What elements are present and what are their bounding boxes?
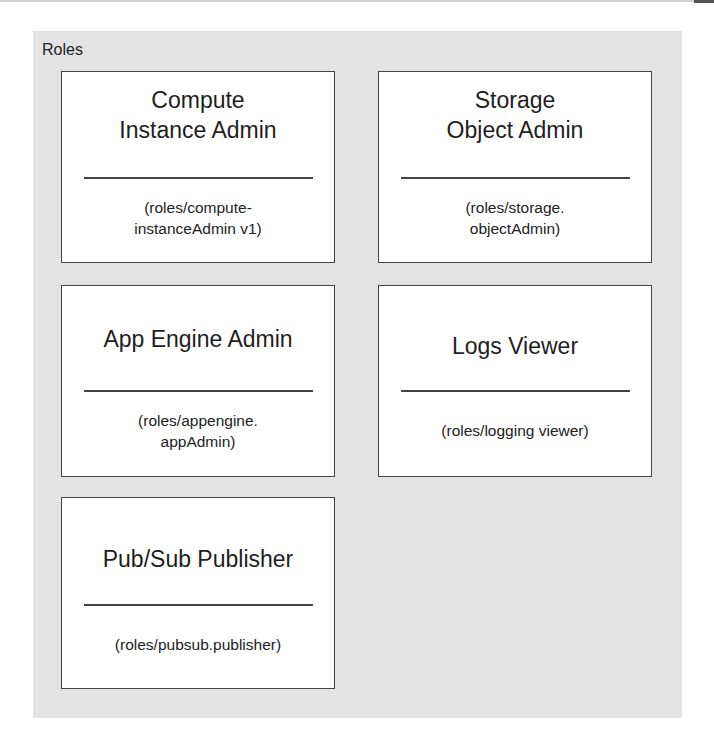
role-title-line: Pub/Sub Publisher	[62, 544, 334, 574]
role-title-line: Object Admin	[379, 115, 651, 145]
role-box-pubsub-publisher: Pub/Sub Publisher (roles/pubsub.publishe…	[61, 497, 335, 689]
role-divider	[84, 177, 313, 179]
role-id-line: objectAdmin)	[379, 218, 651, 239]
roles-container: Roles Compute Instance Admin (roles/comp…	[33, 31, 682, 718]
role-id: (roles/appengine. appAdmin)	[62, 410, 334, 452]
roles-container-label: Roles	[42, 41, 83, 59]
role-title: Logs Viewer	[379, 331, 651, 361]
role-id-line: (roles/compute-	[62, 197, 334, 218]
role-divider	[84, 390, 313, 392]
role-box-storage-object-admin: Storage Object Admin (roles/storage. obj…	[378, 71, 652, 263]
top-rule	[0, 0, 714, 2]
role-id: (roles/logging viewer)	[379, 420, 651, 441]
role-id-line: (roles/logging viewer)	[379, 420, 651, 441]
role-title-line: Storage	[379, 85, 651, 115]
role-divider	[401, 177, 630, 179]
role-id-line: instanceAdmin v1)	[62, 218, 334, 239]
role-title-line: Logs Viewer	[379, 331, 651, 361]
role-id-line: (roles/storage.	[379, 197, 651, 218]
role-box-compute-instance-admin: Compute Instance Admin (roles/compute- i…	[61, 71, 335, 263]
role-id-line: appAdmin)	[62, 431, 334, 452]
role-title: Compute Instance Admin	[62, 85, 334, 145]
role-id: (roles/pubsub.publisher)	[62, 634, 334, 655]
role-title: Pub/Sub Publisher	[62, 544, 334, 574]
role-title: App Engine Admin	[62, 324, 334, 354]
role-box-logs-viewer: Logs Viewer (roles/logging viewer)	[378, 285, 652, 477]
role-id: (roles/storage. objectAdmin)	[379, 197, 651, 239]
role-divider	[401, 390, 630, 392]
role-title-line: Instance Admin	[62, 115, 334, 145]
role-title-line: Compute	[62, 85, 334, 115]
top-rule-accent	[694, 0, 714, 3]
role-divider	[84, 604, 313, 606]
role-id-line: (roles/pubsub.publisher)	[62, 634, 334, 655]
role-id: (roles/compute- instanceAdmin v1)	[62, 197, 334, 239]
role-title: Storage Object Admin	[379, 85, 651, 145]
role-id-line: (roles/appengine.	[62, 410, 334, 431]
role-box-app-engine-admin: App Engine Admin (roles/appengine. appAd…	[61, 285, 335, 477]
role-title-line: App Engine Admin	[62, 324, 334, 354]
